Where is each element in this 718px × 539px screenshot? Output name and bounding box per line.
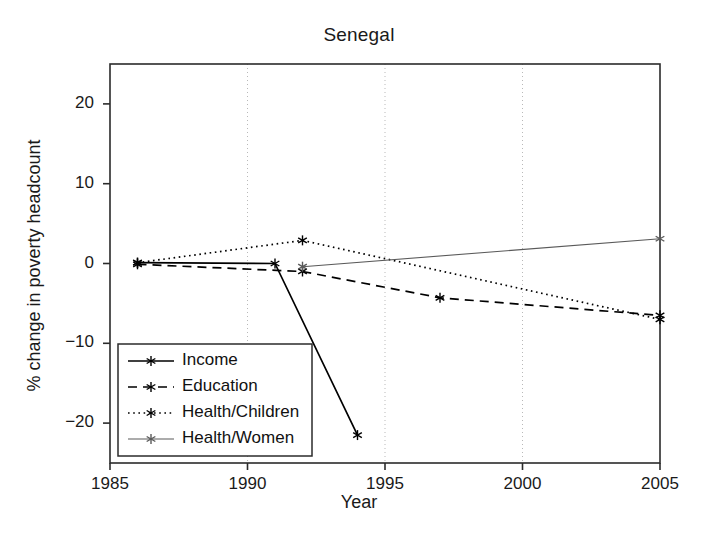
x-tick-label: 1990	[213, 474, 283, 494]
data-point-marker	[656, 314, 665, 324]
x-tick-label: 1985	[75, 474, 145, 494]
series-line-education	[138, 264, 661, 315]
y-tick-label: −10	[42, 332, 94, 352]
y-tick-label: 10	[42, 173, 94, 193]
series-line-health-women	[303, 239, 661, 267]
plot-canvas	[0, 0, 718, 539]
x-tick-label: 1995	[350, 474, 420, 494]
legend-item-health-women[interactable]: Health/Women	[182, 428, 294, 448]
legend-item-health-children[interactable]: Health/Children	[182, 402, 299, 422]
x-tick-label: 2005	[625, 474, 695, 494]
series-line-health-children	[138, 240, 661, 319]
legend-item-income[interactable]: Income	[182, 350, 238, 370]
y-tick-label: 20	[42, 93, 94, 113]
y-tick-label: −20	[42, 412, 94, 432]
x-tick-label: 2000	[488, 474, 558, 494]
data-point-marker	[298, 235, 307, 245]
data-point-marker	[353, 430, 362, 440]
y-tick-label: 0	[42, 253, 94, 273]
legend-item-education[interactable]: Education	[182, 376, 258, 396]
chart-figure: Senegal % change in poverty headcount Ye…	[0, 0, 718, 539]
